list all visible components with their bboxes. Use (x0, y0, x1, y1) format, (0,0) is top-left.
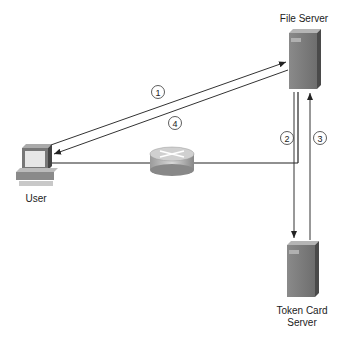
file-server-label: File Server (268, 13, 340, 25)
svg-text:3: 3 (317, 134, 322, 144)
step-marker-4: 4 (169, 117, 182, 130)
step-marker-3: 3 (314, 132, 327, 145)
svg-text:2: 2 (284, 134, 289, 144)
arrow-step-1 (48, 62, 286, 146)
workstation-icon (16, 144, 58, 186)
diagram-canvas: 1 4 2 3 (0, 0, 346, 338)
user-label: User (16, 193, 56, 205)
step-marker-2: 2 (281, 132, 294, 145)
token-server-icon (287, 241, 319, 297)
token-server-label-line2: Server (262, 317, 342, 329)
router-icon (150, 147, 194, 176)
token-server-label-line1: Token Card (262, 305, 342, 317)
file-server-icon (289, 29, 321, 89)
svg-text:1: 1 (155, 88, 160, 98)
arrow-step-4 (54, 70, 288, 154)
step-marker-1: 1 (152, 86, 165, 99)
svg-text:4: 4 (172, 119, 177, 129)
